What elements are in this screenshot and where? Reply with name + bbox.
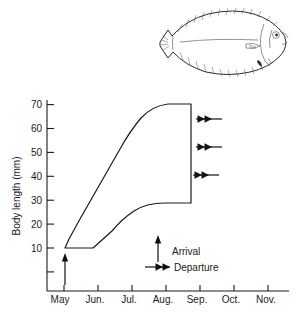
arrival-marker bbox=[62, 253, 68, 285]
growth-envelope-band bbox=[65, 104, 191, 248]
y-tick-label-60: 60 bbox=[31, 123, 43, 134]
y-tick-label-20: 20 bbox=[31, 219, 43, 230]
figure-panel: 70 60 50 40 30 20 10 Body length (mm) Ma… bbox=[0, 0, 297, 321]
legend-arrival: Arrival bbox=[155, 235, 201, 262]
legend-departure-label: Departure bbox=[174, 262, 219, 273]
y-tick-marks bbox=[47, 105, 54, 272]
legend-departure: Departure bbox=[145, 262, 219, 273]
y-tick-label-70: 70 bbox=[31, 99, 43, 110]
x-tick-label-may: May bbox=[51, 294, 70, 305]
legend-arrival-label: Arrival bbox=[172, 246, 200, 257]
y-tick-label-50: 50 bbox=[31, 147, 43, 158]
y-tick-label-40: 40 bbox=[31, 171, 43, 182]
x-tick-label-jul: Jul. bbox=[121, 294, 137, 305]
y-axis-title: Body length (mm) bbox=[11, 157, 22, 236]
y-tick-label-30: 30 bbox=[31, 195, 43, 206]
x-tick-label-sep: Sep. bbox=[187, 294, 208, 305]
departure-marker-1 bbox=[196, 115, 222, 123]
x-tick-label-aug: Aug. bbox=[153, 294, 174, 305]
departure-marker-3 bbox=[193, 171, 219, 179]
growth-chart: 70 60 50 40 30 20 10 Body length (mm) Ma… bbox=[0, 0, 297, 321]
x-tick-marks bbox=[64, 285, 268, 291]
x-tick-label-nov: Nov. bbox=[256, 294, 276, 305]
x-tick-label-jun: Jun. bbox=[86, 294, 105, 305]
departure-marker-2 bbox=[196, 143, 222, 151]
y-tick-label-10: 10 bbox=[31, 243, 43, 254]
x-tick-label-oct: Oct. bbox=[222, 294, 240, 305]
